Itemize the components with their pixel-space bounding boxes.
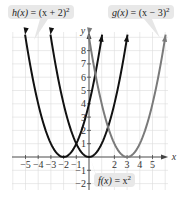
x-tick-label: 4 — [137, 159, 142, 170]
f-label: f(x) = x2 — [94, 173, 135, 187]
x-tick-label: −3 — [46, 159, 57, 170]
x-tick-label: 3 — [125, 159, 130, 170]
x-tick-label: −4 — [33, 159, 44, 170]
h-eq: = (x + 2) — [28, 7, 66, 18]
g-exp: 2 — [166, 6, 170, 14]
g-eq: = (x − 3) — [128, 7, 166, 18]
f-fn: f(x) — [98, 175, 112, 186]
y-axis-label: y — [80, 25, 86, 36]
h-fn: h(x) — [12, 7, 28, 18]
parabola-chart: xy−5−4−3−2−12345−2−112345678 — [0, 0, 186, 207]
f-eq: = x — [112, 175, 128, 186]
y-tick-label: 4 — [81, 98, 86, 109]
h-label: h(x) = (x + 2)2 — [8, 5, 74, 19]
y-tick-label: 8 — [81, 45, 86, 56]
y-tick-label: 6 — [81, 72, 86, 83]
h-exp: 2 — [66, 6, 70, 14]
f-exp: 2 — [128, 174, 132, 182]
y-tick-label: −1 — [75, 165, 86, 176]
y-tick-label: 7 — [81, 58, 86, 69]
g-label: g(x) = (x − 3)2 — [108, 5, 174, 19]
y-tick-label: −2 — [75, 178, 86, 189]
x-tick-label: 2 — [112, 159, 117, 170]
g-fn: g(x) — [112, 7, 128, 18]
x-tick-label: 5 — [150, 159, 155, 170]
x-tick-label: −2 — [58, 159, 69, 170]
y-tick-label: 5 — [81, 85, 86, 96]
x-tick-label: −5 — [20, 159, 31, 170]
y-tick-label: 1 — [81, 138, 86, 149]
x-axis-label: x — [171, 151, 177, 162]
